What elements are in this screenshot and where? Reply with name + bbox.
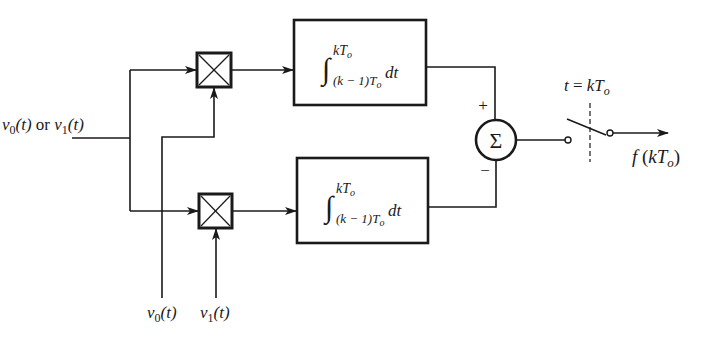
summer-plus-sign: + [478, 96, 488, 115]
integrator-top-box [294, 20, 426, 105]
svg-text:dt: dt [385, 63, 400, 82]
sampler-switch-blade [567, 119, 606, 135]
switch-contact-left [565, 137, 571, 143]
correlation-receiver-diagram: Σ + − ∫ kTo (k − 1)To dt ∫ kTo (k − 1)To… [0, 0, 706, 343]
v0-reference-label: v0(t) [147, 303, 177, 325]
switch-contact-right [607, 130, 613, 136]
input-signal-label: v0(t) or v1(t) [2, 115, 84, 137]
svg-text:dt: dt [388, 201, 403, 220]
summer-minus-sign: − [480, 161, 490, 180]
svg-text:(k − 1)To: (k − 1)To [333, 73, 381, 90]
v1-reference-label: v1(t) [200, 303, 230, 325]
output-label: f (kTo) [632, 146, 680, 170]
multiplier-top [197, 53, 231, 87]
integral-sign-icon: ∫ [323, 190, 335, 226]
summer-symbol: Σ [490, 128, 503, 153]
integrator-bottom-box [297, 158, 428, 243]
multiplier-bottom [199, 194, 232, 228]
svg-text:(k − 1)To: (k − 1)To [336, 211, 384, 228]
sampler-time-label: t = kTo [564, 76, 610, 98]
integral-sign-icon: ∫ [320, 52, 332, 88]
